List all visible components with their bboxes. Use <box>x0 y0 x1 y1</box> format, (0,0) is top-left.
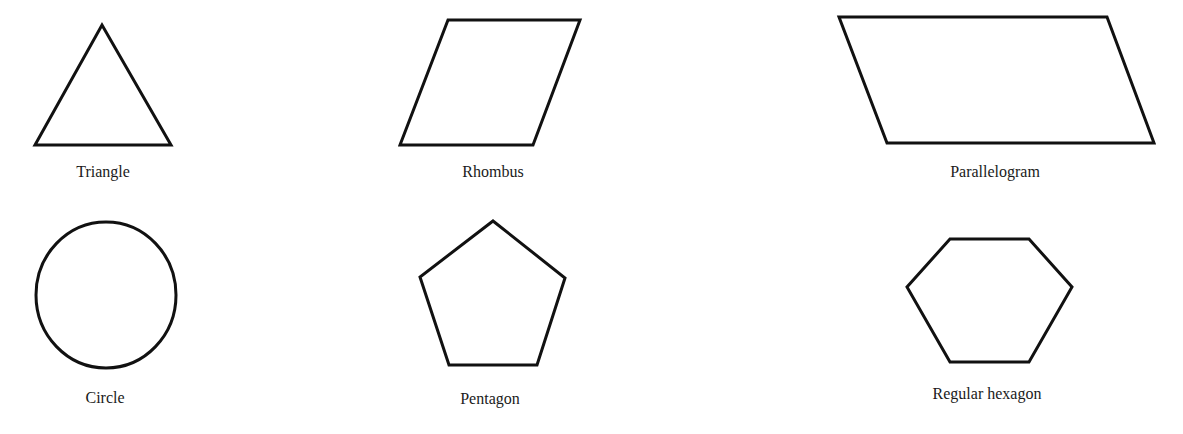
pentagon-shape <box>420 221 565 365</box>
rhombus-label: Rhombus <box>462 163 523 180</box>
triangle-shape <box>35 25 171 145</box>
shapes-diagram: Triangle Rhombus Parallelogram Circle Pe… <box>0 0 1183 434</box>
parallelogram-label: Parallelogram <box>950 163 1040 181</box>
triangle-label: Triangle <box>76 163 130 181</box>
regular-hexagon-shape <box>907 239 1072 362</box>
regular-hexagon-label: Regular hexagon <box>933 385 1042 403</box>
rhombus-shape <box>400 20 580 145</box>
parallelogram-shape <box>839 17 1154 143</box>
pentagon-label: Pentagon <box>460 390 520 408</box>
circle-shape <box>36 222 176 368</box>
circle-label: Circle <box>85 389 124 406</box>
